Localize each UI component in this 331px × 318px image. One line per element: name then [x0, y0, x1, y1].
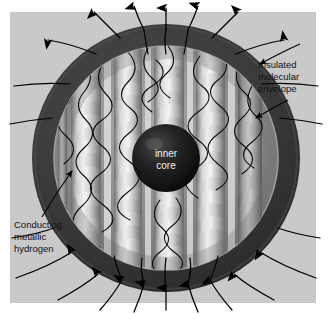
envelope-label-line3: envelope — [258, 83, 297, 94]
metallic-label-line2: metallic — [14, 231, 46, 242]
cylinder-gap-left — [104, 52, 111, 266]
diagram-canvas: inner core — [0, 0, 331, 318]
cylinder-right-inner — [196, 46, 225, 272]
inner-core-label-line1: inner — [155, 148, 178, 159]
inner-core-label-line2: core — [156, 160, 176, 171]
metallic-label-line3: hydrogen — [14, 243, 54, 254]
envelope-label-line1: Insulated — [258, 59, 297, 70]
envelope-label-line2: molecular — [258, 71, 299, 82]
metallic-label-line1: Conducting — [14, 219, 62, 230]
interior-dynamo-figure: inner core — [0, 0, 331, 318]
